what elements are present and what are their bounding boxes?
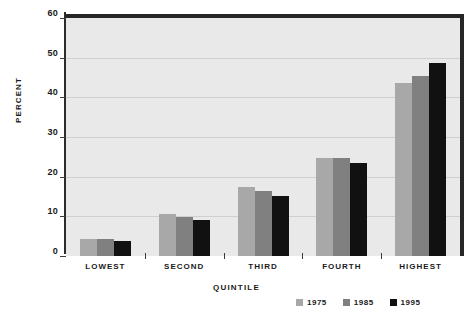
bar — [272, 196, 289, 256]
legend-item: 1975 — [296, 298, 327, 307]
bar — [159, 214, 176, 256]
legend-label: 1995 — [401, 298, 421, 307]
x-axis-tick — [302, 253, 303, 259]
gridline — [66, 58, 460, 59]
x-axis-tick-label: SECOND — [139, 262, 229, 271]
x-axis-tick — [381, 253, 382, 259]
legend-item: 1985 — [343, 298, 374, 307]
x-axis-tick-label: LOWEST — [60, 262, 150, 271]
y-axis-tick — [60, 256, 66, 257]
legend-swatch — [390, 299, 397, 306]
bar — [97, 239, 114, 256]
bar — [395, 83, 412, 256]
y-axis-tick-label: 20 — [18, 167, 58, 177]
legend-item: 1995 — [390, 298, 421, 307]
y-axis-tick-label: 50 — [18, 48, 58, 58]
y-axis-tick-label: 0 — [18, 246, 58, 256]
bar-chart-figure: PERCENT 0102030405060 LOWESTSECONDTHIRDF… — [0, 0, 473, 318]
y-axis-tick — [60, 58, 66, 59]
plot-area — [66, 14, 464, 256]
bar — [412, 76, 429, 256]
x-axis-title: QUINTILE — [0, 283, 473, 292]
chart-legend: 197519851995 — [296, 298, 420, 307]
x-axis-tick-label: THIRD — [218, 262, 308, 271]
bar — [429, 63, 446, 256]
legend-swatch — [343, 299, 350, 306]
y-axis-tick-label: 40 — [18, 87, 58, 97]
x-axis-tick-label: HIGHEST — [376, 262, 466, 271]
x-axis-tick — [224, 253, 225, 259]
x-axis-tick-label: FOURTH — [297, 262, 387, 271]
x-axis-tick — [145, 253, 146, 259]
bar — [316, 158, 333, 256]
bar — [114, 241, 131, 256]
bar — [238, 187, 255, 256]
y-axis-tick — [60, 177, 66, 178]
plot-inner — [66, 18, 460, 256]
y-axis-tick — [60, 97, 66, 98]
legend-swatch — [296, 299, 303, 306]
y-axis-tick — [60, 137, 66, 138]
y-axis-tick-label: 30 — [18, 127, 58, 137]
bar — [176, 217, 193, 256]
bar — [255, 191, 272, 256]
y-axis-tick-label: 10 — [18, 206, 58, 216]
y-axis-tick-label: 60 — [18, 8, 58, 18]
bar — [80, 239, 97, 256]
legend-label: 1975 — [307, 298, 327, 307]
bar — [333, 158, 350, 256]
bar — [193, 220, 210, 256]
legend-label: 1985 — [354, 298, 374, 307]
bar — [350, 163, 367, 256]
y-axis-tick — [60, 216, 66, 217]
y-axis-tick — [60, 18, 66, 19]
